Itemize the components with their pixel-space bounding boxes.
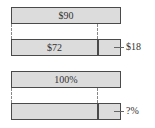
pointer-line-percent (114, 111, 124, 112)
part-bar-percent-right-label: ?% (126, 105, 139, 117)
whole-bar-dollars: $90 (11, 7, 121, 24)
part-bar-dollars-right-label: $18 (126, 41, 141, 53)
dashed-guide-divider (97, 24, 98, 39)
dashed-guide-left-percent (11, 88, 12, 103)
dashed-guide-left (11, 24, 12, 39)
whole-bar-dollars-label: $90 (12, 8, 120, 23)
part-bar-percent-left-segment (12, 104, 97, 119)
part-bar-dollars-left-label: $72 (12, 40, 97, 55)
whole-bar-percent-label: 100% (12, 72, 120, 87)
part-bar-percent-divider (97, 104, 99, 119)
part-bar-dollars-left-segment: $72 (12, 40, 97, 55)
part-bar-dollars-divider (97, 40, 99, 55)
pointer-line-dollars (114, 47, 124, 48)
dashed-guide-divider-percent (97, 88, 98, 103)
whole-bar-percent: 100% (11, 71, 121, 88)
part-bar-percent-left-label (12, 104, 97, 119)
part-bar-percent (11, 103, 121, 120)
part-bar-dollars: $72 (11, 39, 121, 56)
